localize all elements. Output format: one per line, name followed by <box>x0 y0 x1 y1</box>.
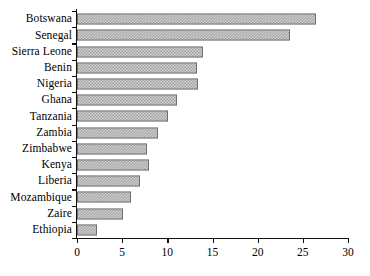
x-axis-tick <box>348 238 349 243</box>
y-axis-label-tanzania: Tanzania <box>0 108 72 124</box>
bar <box>77 14 316 25</box>
y-axis-label-text: Ethiopia <box>32 224 72 236</box>
bar <box>77 46 203 57</box>
bar <box>77 208 123 219</box>
bar-row <box>77 189 348 205</box>
y-axis-tick <box>72 92 77 93</box>
y-axis-label-zambia: Zambia <box>0 124 72 140</box>
plot-area <box>77 11 348 238</box>
y-axis-tick <box>72 222 77 223</box>
y-axis-tick <box>72 11 77 12</box>
y-axis-label-zimbabwe: Zimbabwe <box>0 141 72 157</box>
y-axis-label-text: Kenya <box>41 159 72 171</box>
y-axis-tick <box>72 206 77 207</box>
bar <box>77 224 97 235</box>
x-axis-tick-label: 25 <box>297 246 309 258</box>
bar-row <box>77 60 348 76</box>
y-axis-tick <box>72 141 77 142</box>
bar-series <box>77 11 348 238</box>
x-axis-tick-label: 15 <box>207 246 219 258</box>
y-axis-label-nigeria: Nigeria <box>0 76 72 92</box>
y-axis-label-ethiopia: Ethiopia <box>0 222 72 238</box>
bar-row <box>77 27 348 43</box>
y-axis-label-senegal: Senegal <box>0 27 72 43</box>
x-axis-tick <box>122 238 123 243</box>
x-axis-tick-label: 30 <box>342 246 354 258</box>
y-axis-label-zaire: Zaire <box>0 205 72 221</box>
bar-row <box>77 222 348 238</box>
x-axis-tick-label: 10 <box>162 246 174 258</box>
y-axis-tick <box>72 76 77 77</box>
y-axis-label-text: Senegal <box>35 30 72 42</box>
y-axis-label-text: Benin <box>44 62 72 74</box>
bar-row <box>77 108 348 124</box>
bar-row <box>77 92 348 108</box>
bar-row <box>77 43 348 59</box>
y-axis-tick <box>72 108 77 109</box>
y-axis-label-text: Sierra Leone <box>12 46 72 58</box>
bar-row <box>77 76 348 92</box>
bar <box>77 143 147 154</box>
bar <box>77 62 197 73</box>
y-axis-label-ghana: Ghana <box>0 92 72 108</box>
y-axis-label-text: Nigeria <box>37 78 72 90</box>
x-axis-tick-label: 20 <box>252 246 264 258</box>
x-axis-tick <box>213 238 214 243</box>
y-axis-label-text: Tanzania <box>30 111 72 123</box>
y-axis-label-kenya: Kenya <box>0 157 72 173</box>
bar-chart: BotswanaSenegalSierra LeoneBeninNigeriaG… <box>0 0 370 276</box>
y-axis-label-liberia: Liberia <box>0 173 72 189</box>
x-axis-tick-label: 0 <box>74 246 80 258</box>
bar-row <box>77 124 348 140</box>
bar <box>77 95 177 106</box>
y-axis-label-text: Mozambique <box>10 192 72 204</box>
y-axis-tick <box>72 60 77 61</box>
y-axis-label-text: Zimbabwe <box>22 143 72 155</box>
y-axis-label-sierra-leone: Sierra Leone <box>0 43 72 59</box>
bar-row <box>77 141 348 157</box>
y-axis-label-text: Ghana <box>41 94 72 106</box>
y-axis-category-labels: BotswanaSenegalSierra LeoneBeninNigeriaG… <box>0 11 72 238</box>
x-axis-tick <box>77 238 78 243</box>
x-axis-tick <box>167 238 168 243</box>
y-axis-label-text: Zaire <box>47 208 72 220</box>
y-axis-label-benin: Benin <box>0 60 72 76</box>
bar <box>77 176 140 187</box>
y-axis-tick <box>72 27 77 28</box>
bar <box>77 30 290 41</box>
y-axis-label-botswana: Botswana <box>0 11 72 27</box>
bar-row <box>77 157 348 173</box>
bar-row <box>77 205 348 221</box>
bar <box>77 159 149 170</box>
bar <box>77 111 168 122</box>
y-axis-tick <box>72 157 77 158</box>
bar <box>77 78 198 89</box>
bar-row <box>77 173 348 189</box>
x-axis-tick-label: 5 <box>119 246 125 258</box>
bar <box>77 127 158 138</box>
x-axis-tick <box>258 238 259 243</box>
y-axis-tick <box>72 189 77 190</box>
y-axis-label-text: Liberia <box>38 175 72 187</box>
bar <box>77 192 131 203</box>
y-axis-label-text: Zambia <box>36 127 72 139</box>
x-axis-tick <box>303 238 304 243</box>
y-axis-tick <box>72 43 77 44</box>
y-axis-label-mozambique: Mozambique <box>0 189 72 205</box>
y-axis-tick <box>72 173 77 174</box>
y-axis-label-text: Botswana <box>26 13 72 25</box>
y-axis-tick <box>72 125 77 126</box>
bar-row <box>77 11 348 27</box>
